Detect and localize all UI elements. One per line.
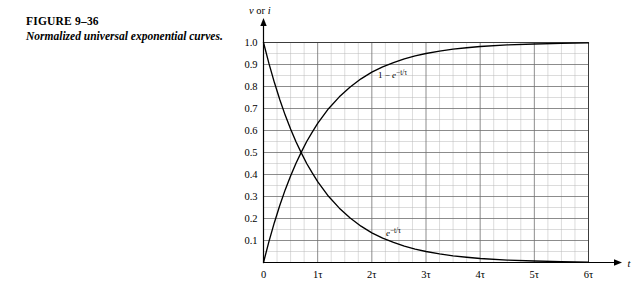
x-tick-label: 0 <box>261 269 266 280</box>
curve-annotations: 1 − e−t/τe−t/τ <box>378 69 407 238</box>
y-tick-label: 0.1 <box>244 235 257 246</box>
y-tick-label: 0.9 <box>244 59 257 70</box>
x-tick-label: 6τ <box>584 269 593 280</box>
y-axis-tick-labels: 0.10.20.30.40.50.60.70.80.91.0 <box>244 37 258 246</box>
figure-container: FIGURE 9–36 Normalized universal exponen… <box>0 0 641 305</box>
y-tick-label: 0.4 <box>244 169 258 180</box>
x-tick-label: 1τ <box>313 269 322 280</box>
annotation-rising-exponential: 1 − e−t/τ <box>378 69 407 80</box>
normalized-exponential-curves-chart: 0.10.20.30.40.50.60.70.80.91.0 01τ2τ3τ4τ… <box>0 0 641 305</box>
y-tick-label: 0.5 <box>244 147 257 158</box>
x-axis-title: t <box>628 258 632 269</box>
y-tick-label: 0.7 <box>244 103 257 114</box>
x-tick-label: 2τ <box>367 269 376 280</box>
y-tick-label: 0.8 <box>244 81 257 92</box>
x-axis-tick-labels: 01τ2τ3τ4τ5τ6τ <box>261 269 593 280</box>
y-axis-title: v or i <box>249 5 271 16</box>
x-tick-label: 5τ <box>530 269 539 280</box>
svg-text:1 − e−t/τ: 1 − e−t/τ <box>378 69 407 80</box>
x-tick-label: 3τ <box>421 269 430 280</box>
y-tick-label: 1.0 <box>244 37 257 48</box>
chart-axes <box>260 18 622 266</box>
x-tick-label: 4τ <box>475 269 484 280</box>
y-tick-label: 0.6 <box>244 125 257 136</box>
y-tick-label: 0.3 <box>244 191 257 202</box>
y-tick-label: 0.2 <box>244 213 257 224</box>
